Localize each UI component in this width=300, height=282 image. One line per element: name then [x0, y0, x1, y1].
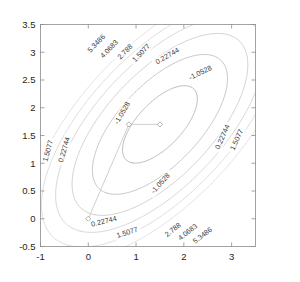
- y-tick-label: 3.5: [22, 19, 35, 30]
- x-tick-label: 0: [86, 251, 91, 262]
- y-tick-label: 3: [30, 47, 35, 58]
- y-tick-label: 1: [30, 158, 35, 169]
- y-tick-label: 0.5: [22, 185, 35, 196]
- y-tick-label: -0.5: [19, 241, 35, 252]
- y-tick-label: 2: [30, 102, 35, 113]
- y-tick-label: 0: [30, 213, 35, 224]
- x-tick-label: 3: [229, 251, 234, 262]
- plot-canvas: 5.34864.06832.7881.50770.22744-1.0528-1.…: [0, 0, 300, 282]
- x-tick-label: 1: [133, 251, 138, 262]
- x-tick-label: -1: [36, 251, 44, 262]
- x-tick-label: 2: [181, 251, 186, 262]
- contour-plot-figure: 5.34864.06832.7881.50770.22744-1.0528-1.…: [0, 0, 300, 282]
- y-tick-label: 1.5: [22, 130, 35, 141]
- y-tick-label: 2.5: [22, 74, 35, 85]
